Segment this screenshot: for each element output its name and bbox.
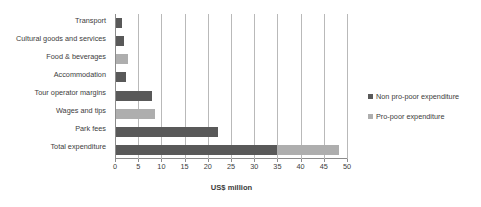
category-axis-labels: Transport Cultural goods and services Fo…: [0, 14, 110, 159]
category-label: Total expenditure: [50, 143, 106, 151]
bar-row: [116, 145, 348, 155]
bar-chart: Transport Cultural goods and services Fo…: [0, 0, 481, 207]
legend-swatch-icon: [368, 94, 373, 99]
bar-segment: [277, 145, 338, 155]
category-label: Food & beverages: [46, 53, 106, 61]
bar-row: [116, 72, 348, 82]
x-axis-tick-label: 45: [320, 162, 328, 171]
plot-area: [115, 14, 348, 159]
bar-segment: [116, 145, 277, 155]
bar-segment: [116, 72, 126, 82]
category-label: Wages and tips: [56, 107, 106, 115]
x-axis-tick-label: 20: [204, 162, 212, 171]
legend-swatch-icon: [368, 114, 373, 119]
x-axis-tick-label: 5: [136, 162, 140, 171]
x-axis-tick-labels: 05101520253035404550: [115, 162, 348, 174]
category-label: Tour operator margins: [35, 89, 106, 97]
bar-segment: [116, 91, 152, 101]
x-axis-tick-label: 0: [113, 162, 117, 171]
bar-row: [116, 36, 348, 46]
x-axis-tick-label: 30: [250, 162, 258, 171]
category-label: Accommodation: [54, 71, 106, 79]
legend-label: Pro-poor expenditure: [376, 112, 445, 121]
x-axis-tick-label: 15: [181, 162, 189, 171]
legend-item: Pro-poor expenditure: [368, 112, 459, 121]
bar-row: [116, 127, 348, 137]
category-label: Park fees: [75, 125, 106, 133]
legend: Non pro-poor expenditure Pro-poor expend…: [368, 92, 459, 132]
x-axis-tick-label: 10: [157, 162, 165, 171]
bar-segment: [116, 54, 128, 64]
bar-row: [116, 54, 348, 64]
category-label: Cultural goods and services: [16, 35, 106, 43]
legend-item: Non pro-poor expenditure: [368, 92, 459, 101]
bar-row: [116, 109, 348, 119]
bar-segment: [116, 36, 124, 46]
x-axis-tick-label: 25: [227, 162, 235, 171]
x-axis-tick-label: 50: [343, 162, 351, 171]
bar-segment: [116, 109, 155, 119]
legend-label: Non pro-poor expenditure: [376, 92, 459, 101]
x-axis-tick-label: 35: [273, 162, 281, 171]
bar-row: [116, 18, 348, 28]
x-axis-title: US$ million: [115, 183, 348, 192]
bar-segment: [116, 18, 122, 28]
bar-segment: [116, 127, 218, 137]
x-axis-tick-label: 40: [297, 162, 305, 171]
bar-row: [116, 91, 348, 101]
category-label: Transport: [75, 17, 106, 25]
